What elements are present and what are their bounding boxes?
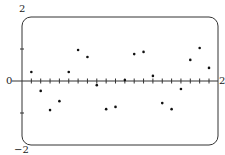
y-label-bottom: −2	[14, 145, 29, 155]
data-point	[152, 75, 155, 78]
data-point	[133, 53, 136, 56]
data-point	[114, 106, 117, 109]
data-point	[77, 49, 80, 52]
data-point	[67, 71, 70, 74]
data-point	[170, 108, 173, 111]
y-label-zero: 0	[6, 76, 12, 86]
data-point	[39, 90, 42, 93]
data-point	[96, 84, 99, 87]
data-point	[105, 108, 108, 111]
x-label-right: 2	[219, 76, 225, 86]
data-point	[86, 56, 89, 59]
data-point	[58, 100, 61, 103]
data-point	[189, 59, 192, 62]
y-label-top: 2	[19, 4, 25, 14]
data-point	[142, 51, 145, 54]
data-point	[198, 47, 201, 50]
data-points	[30, 47, 210, 112]
data-point	[161, 102, 164, 105]
data-point	[49, 109, 52, 112]
scatter-plot	[0, 0, 225, 155]
data-point	[30, 71, 33, 74]
data-point	[208, 67, 211, 70]
data-point	[180, 88, 183, 91]
data-point	[124, 79, 127, 82]
